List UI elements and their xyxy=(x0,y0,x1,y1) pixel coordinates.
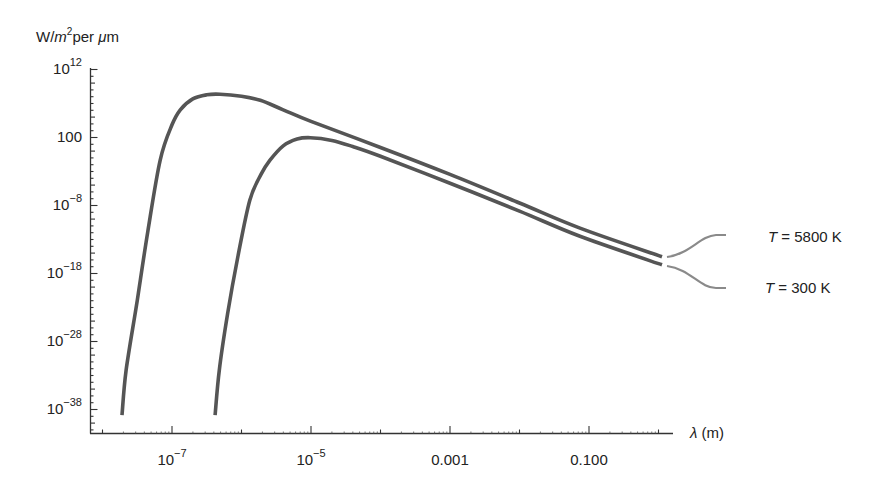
x-tick-label: 0.001 xyxy=(431,451,469,468)
series-label-5800k: T = 5800 K xyxy=(768,228,842,245)
series-label-300k: T = 300 K xyxy=(765,279,830,296)
axes: 101210010−810−1810−2810−38 10−710−50.001… xyxy=(47,56,673,468)
y-axis-label: W/m2per μm xyxy=(36,26,119,45)
x-ticks: 10−710−50.0010.100 xyxy=(103,426,659,468)
y-tick-label: 1012 xyxy=(53,56,82,77)
y-tick-label: 100 xyxy=(57,128,82,145)
x-tick-label: 10−5 xyxy=(296,447,325,468)
y-tick-label: 10−8 xyxy=(53,192,82,213)
leader-line-300k xyxy=(667,266,726,288)
curve-5800k xyxy=(122,94,662,415)
leader-line-5800k xyxy=(667,235,726,257)
plot-series xyxy=(122,94,662,415)
x-axis-label: λ (m) xyxy=(689,424,724,441)
curve-300k xyxy=(215,138,662,415)
blackbody-spectrum-chart: W/m2per μm 101210010−810−1810−2810−38 10… xyxy=(0,0,890,499)
y-tick-label: 10−38 xyxy=(47,396,82,417)
x-tick-label: 0.100 xyxy=(570,451,608,468)
y-tick-label: 10−28 xyxy=(47,328,82,349)
y-tick-label: 10−18 xyxy=(47,260,82,281)
x-tick-label: 10−7 xyxy=(157,447,186,468)
